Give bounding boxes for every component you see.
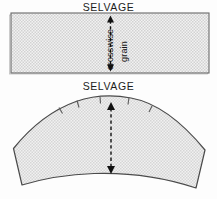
selvage-label-bottom: SELVAGE: [0, 80, 217, 92]
grain-label-crosswise: crosswise: [105, 29, 115, 70]
grain-label-grain: grain: [119, 41, 129, 62]
notch-mark: [100, 97, 101, 104]
selvage-label-top: SELVAGE: [0, 1, 217, 13]
fabric-grain-diagram: SELVAGE SELVAGE crosswise grain: [0, 0, 217, 199]
